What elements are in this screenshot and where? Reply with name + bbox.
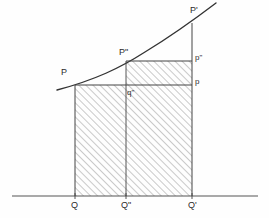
label-Q-double-prime: Q" (121, 201, 131, 210)
geometric-figure: P P' P" p" p q" Q Q" Q' (0, 0, 269, 218)
label-P-prime: P' (190, 6, 198, 15)
label-q-double-prime: q" (127, 89, 134, 97)
upper-hatched-region (126, 61, 192, 85)
label-P: P (61, 68, 67, 77)
figure-canvas (0, 0, 269, 218)
lower-hatched-region (75, 85, 192, 196)
label-p: p (195, 78, 199, 86)
label-Q: Q (71, 201, 78, 210)
label-p-double-prime: p" (195, 54, 202, 62)
label-P-double-prime: P" (119, 48, 128, 57)
label-Q-prime: Q' (188, 201, 197, 210)
